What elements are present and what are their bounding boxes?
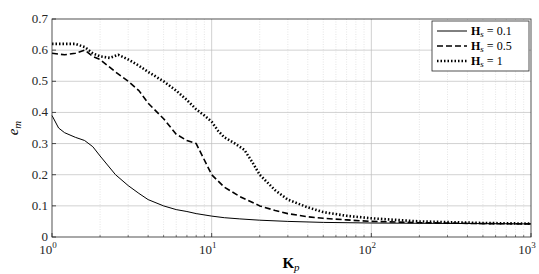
- series-line: [52, 116, 531, 224]
- svg-text:Hs = 1: Hs = 1: [471, 54, 503, 69]
- y-axis-label: em: [5, 121, 23, 136]
- line-chart: 00.10.20.30.40.50.60.7100101102103 Kp em…: [0, 0, 539, 274]
- x-tick-label: 102: [359, 240, 377, 257]
- y-tick-label: 0.7: [32, 11, 49, 26]
- x-tick-label: 101: [199, 240, 217, 257]
- legend: Hs = 0.1 Hs = 0.5 Hs = 1: [432, 21, 529, 71]
- y-tick-label: 0.6: [32, 42, 49, 57]
- x-tick-label: 100: [39, 240, 57, 257]
- svg-text:Hs = 0.1: Hs = 0.1: [471, 24, 512, 39]
- y-tick-label: 0.1: [32, 198, 48, 213]
- y-tick-label: 0.3: [32, 136, 48, 151]
- x-tick-label: 103: [518, 240, 536, 257]
- y-tick-label: 0.4: [32, 104, 49, 119]
- series-line: [52, 50, 531, 224]
- y-tick-label: 0.5: [32, 73, 48, 88]
- y-tick-label: 0.2: [32, 167, 48, 182]
- svg-text:Hs = 0.5: Hs = 0.5: [471, 39, 512, 54]
- x-axis-label: Kp: [282, 255, 300, 273]
